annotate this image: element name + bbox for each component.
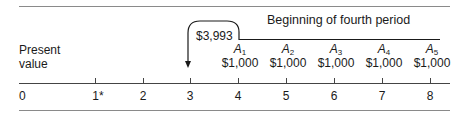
tick-label-4: 4 [235, 89, 242, 103]
present-value-label-line1: Present [19, 43, 60, 57]
annuity-amount-2: $1,000 [270, 56, 307, 70]
arrow-head-icon [185, 61, 191, 68]
present-value-label-line2: value [19, 57, 48, 71]
tick-label-8: 8 [427, 89, 434, 103]
diagram-title: Beginning of fourth period [267, 13, 410, 27]
annuity-amount-1: $1,000 [222, 56, 259, 70]
annuity-amount-5: $1,000 [414, 56, 451, 70]
tick-label-6: 6 [331, 89, 338, 103]
tick-marks [96, 78, 431, 83]
tick-label-2: 2 [140, 89, 147, 103]
tick-label-5: 5 [283, 89, 290, 103]
tick-label-1: 1* [92, 89, 103, 103]
annuity-amount-4: $1,000 [366, 56, 403, 70]
tick-label-3: 3 [187, 89, 194, 103]
tick-label-0: 0 [19, 89, 26, 103]
annuity-amount-3: $1,000 [318, 56, 355, 70]
tick-label-7: 7 [379, 89, 386, 103]
present-value-amount: $3,993 [196, 29, 233, 43]
